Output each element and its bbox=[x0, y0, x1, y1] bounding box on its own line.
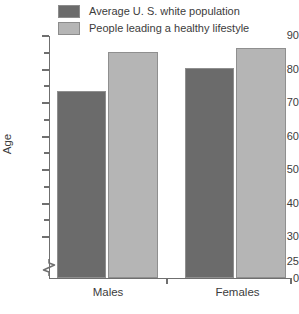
bar-males-average-population bbox=[57, 91, 106, 278]
x-tick-right bbox=[290, 278, 292, 284]
bar-males-healthy-lifestyle bbox=[108, 52, 158, 278]
x-tick-label-females: Females bbox=[190, 286, 285, 299]
bar-females-healthy-lifestyle bbox=[236, 48, 286, 278]
bar-females-average-population bbox=[185, 68, 234, 278]
bars-layer bbox=[0, 0, 299, 314]
x-tick-center bbox=[166, 278, 168, 284]
x-tick-label-males: Males bbox=[63, 286, 153, 299]
bar-chart: Average U. S. white population People le… bbox=[0, 0, 299, 314]
